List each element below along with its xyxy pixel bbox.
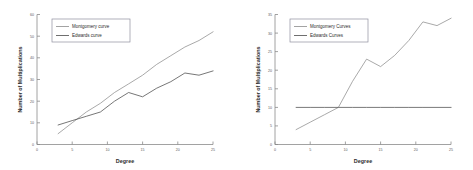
right-legend: Montgomery Curves Edwards Curves (290, 19, 368, 42)
right-plot-svg: 0 5 10 15 20 25 30 35 0 5 10 15 20 (237, 0, 473, 170)
right-y-axis-title: Number of Multiplications (255, 46, 261, 112)
right-x-ticks: 0 5 10 15 20 25 (274, 142, 453, 152)
left-y-axis-title: Number of Multiplications (17, 46, 23, 112)
left-series-edwards (58, 71, 213, 125)
left-xtick-15: 15 (141, 148, 145, 152)
left-xtick-0: 0 (36, 148, 38, 152)
right-ytick-35: 35 (268, 13, 272, 17)
left-series-montgomery (58, 32, 213, 134)
left-ytick-40: 40 (30, 56, 34, 60)
left-ytick-60: 60 (30, 13, 34, 17)
left-ytick-0: 0 (32, 143, 34, 147)
left-ytick-30: 30 (30, 78, 34, 82)
right-ytick-25: 25 (268, 50, 272, 54)
left-y-ticks: 0 10 20 30 40 50 60 (30, 13, 40, 147)
right-ytick-5: 5 (270, 124, 272, 128)
right-xtick-0: 0 (274, 148, 276, 152)
right-y-ticks: 0 5 10 15 20 25 30 35 (268, 13, 278, 147)
right-xtick-10: 10 (343, 148, 347, 152)
left-xtick-5: 5 (71, 148, 73, 152)
right-ytick-30: 30 (268, 32, 272, 36)
chart-panel-left: 0 10 20 30 40 50 60 0 5 10 15 20 25 (0, 0, 236, 170)
right-legend-label-montgomery: Montgomery Curves (310, 24, 351, 29)
right-legend-box (290, 19, 368, 42)
left-plot-svg: 0 10 20 30 40 50 60 0 5 10 15 20 25 (0, 0, 236, 170)
right-ytick-15: 15 (268, 87, 272, 91)
left-xtick-25: 25 (211, 148, 215, 152)
left-ytick-50: 50 (30, 35, 34, 39)
left-xtick-20: 20 (176, 148, 180, 152)
left-legend-box (52, 19, 130, 42)
right-xtick-15: 15 (379, 148, 383, 152)
left-legend-label-montgomery: Montgomery curve (72, 24, 110, 29)
left-legend: Montgomery curve Edwards curve (52, 19, 130, 42)
left-legend-label-edwards: Edwards curve (72, 33, 102, 38)
left-x-ticks: 0 5 10 15 20 25 (36, 142, 215, 152)
right-xtick-20: 20 (414, 148, 418, 152)
right-xtick-25: 25 (449, 148, 453, 152)
right-x-axis-title: Degree (354, 158, 372, 164)
right-legend-label-edwards: Edwards Curves (310, 33, 344, 38)
right-xtick-5: 5 (309, 148, 311, 152)
figure-container: 0 10 20 30 40 50 60 0 5 10 15 20 25 (0, 0, 473, 170)
right-ytick-10: 10 (268, 106, 272, 110)
left-ytick-10: 10 (30, 121, 34, 125)
left-x-axis-title: Degree (116, 158, 134, 164)
left-ytick-20: 20 (30, 100, 34, 104)
right-ytick-20: 20 (268, 69, 272, 73)
chart-panel-right: 0 5 10 15 20 25 30 35 0 5 10 15 20 (237, 0, 473, 170)
right-ytick-0: 0 (270, 143, 272, 147)
left-xtick-10: 10 (105, 148, 109, 152)
